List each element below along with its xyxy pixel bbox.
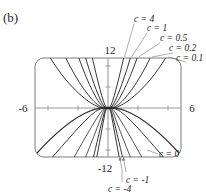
leader-c-0-2 xyxy=(152,53,173,57)
cropped-top-text xyxy=(52,0,162,3)
figure-panel-b: (b) xyxy=(0,0,206,194)
x-tick-label-right: 6 xyxy=(189,102,195,114)
leader-c-0 xyxy=(147,150,158,154)
y-tick-label-top: 12 xyxy=(105,44,116,56)
panel-label: (b) xyxy=(3,10,18,26)
x-tick-label-left: -6 xyxy=(18,102,28,114)
curve-label-c-0-2: c = 0.2 xyxy=(169,43,197,53)
curve-label-c-0-5: c = 0.5 xyxy=(160,33,188,43)
bottom-leader-arrows xyxy=(119,157,126,161)
right-leader-line xyxy=(147,150,158,154)
leader-c-0-5 xyxy=(139,43,161,57)
curve-label-c-0-1: c = 0.1 xyxy=(176,53,203,63)
curve-label-c-minus-4: c = -4 xyxy=(108,184,132,194)
y-tick-label-bottom: -12 xyxy=(98,162,113,174)
curve-label-c-1: c = 1 xyxy=(147,23,167,33)
curve-label-c-0: c = 0 xyxy=(159,149,179,159)
leader-c-4 xyxy=(125,24,135,57)
curve-family-plot: -6 6 12 -12 c = 4 c = 1 c = 0.5 c = 0.2 … xyxy=(0,0,206,194)
leader-c-1 xyxy=(132,33,148,57)
